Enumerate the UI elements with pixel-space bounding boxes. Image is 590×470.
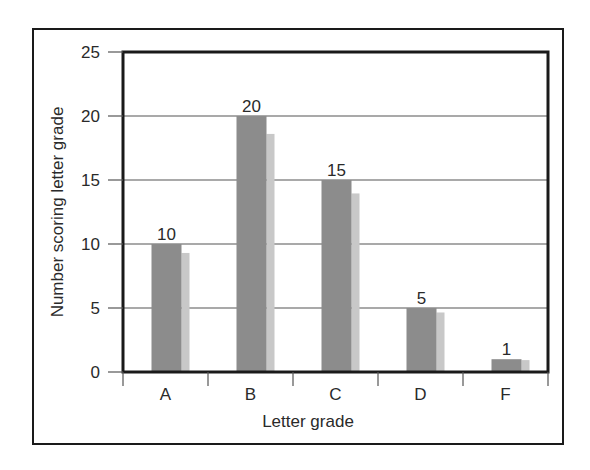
x-axis-title: Letter grade: [262, 412, 354, 431]
y-axis-title: Number scoring letter grade: [48, 107, 67, 318]
x-tick-label: D: [414, 385, 426, 404]
x-axis: ABCDF: [123, 372, 548, 404]
bar-D: [407, 308, 437, 372]
y-tick-label: 15: [81, 171, 100, 190]
bar-chart: 0510152025 ABCDF 10201551 Letter grade N…: [0, 0, 590, 470]
bar-A: [152, 244, 182, 372]
bar-shadow: [522, 360, 530, 372]
y-tick-label: 5: [91, 299, 100, 318]
bar-C: [322, 180, 352, 372]
bar-F: [492, 359, 522, 372]
data-label: 10: [157, 225, 176, 244]
data-label: 5: [417, 289, 426, 308]
y-tick-label: 0: [91, 363, 100, 382]
data-label: 15: [327, 161, 346, 180]
bar-shadow: [182, 253, 190, 372]
x-tick-label: C: [329, 385, 341, 404]
bar-shadow: [437, 312, 445, 372]
y-tick-label: 20: [81, 107, 100, 126]
data-label: 20: [242, 97, 261, 116]
x-tick-label: A: [160, 385, 172, 404]
y-tick-label: 10: [81, 235, 100, 254]
x-tick-label: F: [500, 385, 510, 404]
data-label: 1: [502, 340, 511, 359]
bar-shadow: [352, 193, 360, 372]
bar-shadow: [267, 134, 275, 372]
x-tick-label: B: [245, 385, 256, 404]
bar-B: [237, 116, 267, 372]
y-axis: 0510152025: [81, 43, 123, 382]
y-tick-label: 25: [81, 43, 100, 62]
